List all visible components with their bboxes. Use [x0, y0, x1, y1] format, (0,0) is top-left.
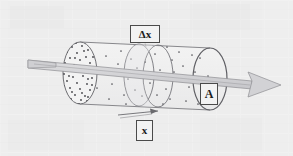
label-area-a-text: A [205, 88, 214, 100]
label-area-a: A [200, 83, 218, 105]
label-delta-x-text: Δx [139, 29, 151, 40]
label-delta-x: Δx [130, 25, 160, 43]
figure-container: Δx A x [0, 0, 293, 156]
label-axis-x-text: x [142, 125, 148, 136]
label-axis-x: x [136, 120, 153, 141]
